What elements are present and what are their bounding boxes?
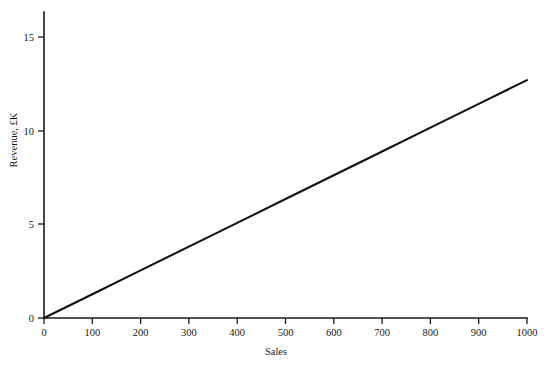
x-tick-label-300: 300 (181, 327, 197, 338)
x-tick-label-400: 400 (229, 327, 245, 338)
chart-figure: 15 10 5 0 0 100 200 300 400 500 (0, 0, 544, 371)
x-tick-label-900: 900 (471, 327, 487, 338)
x-tick-label-700: 700 (374, 327, 390, 338)
y-tick-label-10: 10 (24, 126, 35, 137)
x-tick-label-500: 500 (278, 327, 294, 338)
x-axis-title: Sales (265, 346, 287, 357)
y-tick-label-15: 15 (24, 32, 35, 43)
x-tick-label-800: 800 (423, 327, 439, 338)
revenue-vs-sales-line-chart: 15 10 5 0 0 100 200 300 400 500 (0, 0, 544, 371)
x-tick-label-100: 100 (84, 327, 100, 338)
x-tick-label-600: 600 (326, 327, 342, 338)
x-tick-label-1000: 1000 (517, 327, 538, 338)
y-axis-title: Revenue, £K (8, 112, 19, 167)
x-tick-label-0: 0 (41, 327, 46, 338)
y-tick-label-0: 0 (29, 313, 34, 324)
x-tick-label-200: 200 (133, 327, 149, 338)
y-tick-label-5: 5 (29, 219, 34, 230)
plot-background (0, 0, 544, 371)
